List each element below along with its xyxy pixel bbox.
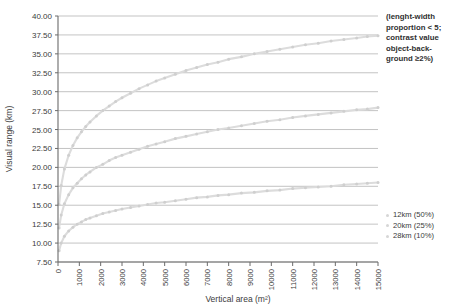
data-point [114, 209, 117, 212]
data-point [174, 73, 177, 76]
data-point [240, 55, 243, 58]
data-point [227, 58, 230, 61]
data-point [67, 193, 70, 196]
data-point [114, 156, 117, 159]
data-point [291, 116, 294, 119]
y-tick-label: 25.00 [32, 126, 53, 135]
data-point [174, 199, 177, 202]
x-tick-label: 4000 [139, 269, 148, 286]
data-point [114, 100, 117, 103]
data-point [366, 108, 369, 111]
x-tick-label: 1000 [75, 269, 84, 286]
legend-marker-icon [386, 224, 389, 227]
x-tick-label: 14000 [353, 269, 362, 290]
data-point [163, 201, 166, 204]
data-point [253, 122, 256, 125]
data-point [84, 218, 87, 221]
legend-item-2[interactable]: 20km (25%) [386, 221, 454, 232]
data-point [146, 145, 149, 148]
data-point [138, 148, 141, 151]
data-point [108, 105, 111, 108]
data-point [95, 114, 98, 117]
legend-item-1[interactable]: 12km (50%) [386, 210, 454, 221]
annotation-line: (lenght-width [386, 12, 454, 23]
data-point [108, 211, 111, 214]
data-point [76, 136, 79, 139]
data-point [84, 125, 87, 128]
data-point [71, 144, 74, 147]
data-point [377, 181, 380, 184]
data-point [185, 135, 188, 138]
legend-item-3[interactable]: 28km (10%) [386, 231, 454, 242]
data-point [217, 128, 220, 131]
data-point [129, 206, 132, 209]
data-point [240, 192, 243, 195]
annotation-line: object-back- [386, 44, 454, 55]
data-point [95, 214, 98, 217]
data-point [89, 217, 92, 220]
data-point [101, 212, 104, 215]
legend-marker-icon [386, 235, 389, 238]
annotation-line: ground ≥2%) [386, 54, 454, 65]
data-point [206, 63, 209, 66]
y-tick-label: 37.50 [32, 31, 53, 40]
y-tick-label: 20.00 [32, 163, 53, 172]
x-tick-label: 5000 [161, 269, 170, 286]
data-point [366, 35, 369, 38]
data-point [377, 34, 380, 37]
data-point [155, 201, 158, 204]
data-point [60, 184, 63, 187]
data-point [206, 195, 209, 198]
x-tick-label: 12000 [310, 269, 319, 290]
data-point [121, 96, 124, 99]
data-point [227, 193, 230, 196]
data-point [146, 83, 149, 86]
data-point [240, 124, 243, 127]
data-point [63, 202, 66, 205]
data-point [195, 196, 198, 199]
data-point [155, 80, 158, 83]
data-point [195, 133, 198, 136]
data-point [80, 177, 83, 180]
data-point [253, 52, 256, 55]
legend-label: 28km (10%) [393, 231, 434, 242]
y-tick-label: 15.00 [32, 201, 53, 210]
data-point [185, 198, 188, 201]
data-point [253, 191, 256, 194]
x-tick-label: 8000 [225, 269, 234, 286]
data-point [163, 77, 166, 80]
x-tick-label: 11000 [289, 269, 298, 290]
data-point [278, 118, 281, 121]
data-point [89, 170, 92, 173]
data-point [355, 108, 358, 111]
data-point [71, 226, 74, 229]
x-tick-label: 0 [54, 269, 63, 273]
data-point [155, 142, 158, 145]
y-tick-label: 35.00 [32, 50, 53, 59]
annotation-line: contrast value [386, 33, 454, 44]
legend-label: 12km (50%) [393, 210, 434, 221]
y-tick-label: 7.50 [36, 258, 52, 267]
data-point [227, 127, 230, 130]
data-point [101, 163, 104, 166]
data-point [121, 208, 124, 211]
annotation-line: proportion < 5; [386, 23, 454, 34]
data-point [366, 182, 369, 185]
data-point [291, 46, 294, 49]
y-tick-label: 27.50 [32, 107, 53, 116]
data-point [185, 69, 188, 72]
y-tick-label: 12.50 [32, 220, 53, 229]
x-tick-label: 2000 [97, 269, 106, 286]
data-point [101, 109, 104, 112]
data-point [121, 154, 124, 157]
data-point [317, 42, 320, 45]
data-point [67, 154, 70, 157]
data-point [163, 140, 166, 143]
y-tick-label: 40.00 [32, 12, 53, 21]
data-point [355, 183, 358, 186]
x-tick-label: 9000 [246, 269, 255, 286]
data-point [278, 189, 281, 192]
data-point [95, 166, 98, 169]
data-point [60, 214, 63, 217]
data-point [355, 36, 358, 39]
